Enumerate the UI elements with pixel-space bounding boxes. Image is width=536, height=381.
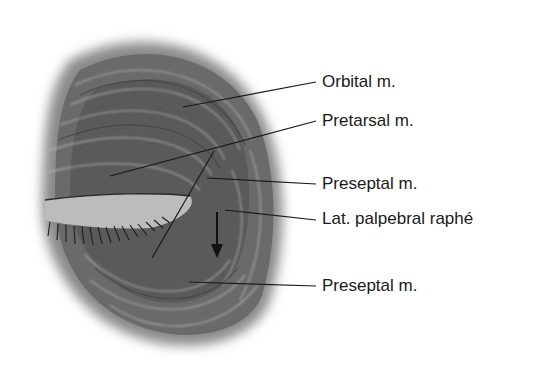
label-preseptal-upper: Preseptal m.: [322, 174, 417, 194]
orbicularis-muscle: [42, 42, 283, 346]
label-preseptal-lower: Preseptal m.: [322, 276, 417, 296]
label-lat-palpebral-raphe: Lat. palpebral raphé: [322, 209, 473, 229]
eyelid-muscle-illustration: [0, 0, 536, 381]
label-pretarsal: Pretarsal m.: [322, 111, 414, 131]
label-orbital: Orbital m.: [322, 72, 396, 92]
